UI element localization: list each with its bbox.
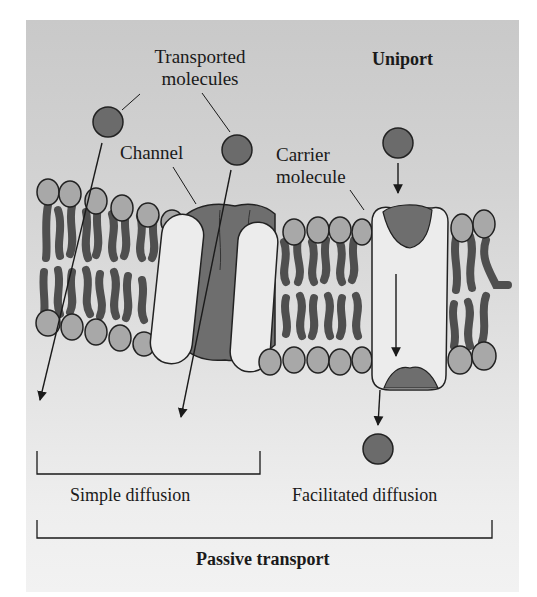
label-transported-line2: molecules <box>136 68 264 90</box>
label-carrier-line2: molecule <box>276 166 346 188</box>
label-simple-diffusion: Simple diffusion <box>70 484 190 506</box>
channel-protein <box>148 204 279 373</box>
label-carrier-line1: Carrier <box>276 144 346 166</box>
bracket-simple-diffusion <box>37 451 260 474</box>
arrow-carrier-out <box>378 390 380 425</box>
label-channel: Channel <box>120 142 183 164</box>
leader-carrier <box>350 190 364 210</box>
label-transported-molecules: Transported molecules <box>136 46 264 90</box>
label-passive-transport: Passive transport <box>196 548 330 570</box>
molecule-channel <box>222 135 252 165</box>
bracket-passive-transport <box>37 520 492 538</box>
label-facilitated-diffusion: Facilitated diffusion <box>292 484 437 506</box>
title-uniport: Uniport <box>372 48 433 70</box>
membrane-diagram <box>0 0 537 597</box>
leader-molecule-left <box>122 94 140 110</box>
molecule-carrier-bottom <box>363 434 393 464</box>
leader-molecule-right <box>202 93 230 132</box>
label-carrier-molecule: Carrier molecule <box>276 144 346 188</box>
lipid-bilayer-right <box>448 210 508 374</box>
leader-channel <box>173 167 196 204</box>
molecule-simple <box>93 107 123 137</box>
label-transported-line1: Transported <box>136 46 264 68</box>
carrier-protein <box>372 205 448 390</box>
molecule-carrier-top <box>383 128 413 158</box>
